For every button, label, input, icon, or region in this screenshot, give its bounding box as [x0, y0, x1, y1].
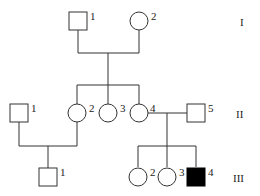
individual-III2-female [129, 168, 147, 186]
label-II5: 5 [208, 102, 214, 114]
label-III3: 3 [179, 166, 185, 178]
individual-II3-female [99, 104, 117, 122]
individual-III1-male [39, 168, 57, 186]
individual-II5-male [187, 104, 205, 122]
generation-label-III: III [233, 172, 244, 184]
label-II4: 4 [150, 102, 156, 114]
marriage-line-I [78, 30, 139, 53]
pedigree-chart: 1 2 I 1 2 3 4 5 II 1 2 3 4 III [0, 0, 260, 196]
individual-II1-male [10, 104, 28, 122]
sibling-drops-III [138, 146, 196, 167]
individual-II2-female [68, 104, 86, 122]
label-I2: 2 [151, 10, 157, 22]
individual-II4-female [130, 104, 148, 122]
label-II1: 1 [31, 102, 37, 114]
label-III2: 2 [150, 166, 156, 178]
label-II2: 2 [89, 102, 95, 114]
individual-I2-female [130, 12, 148, 30]
label-I1: 1 [90, 10, 96, 22]
sibling-drops-II [77, 85, 139, 104]
individual-I1-male [69, 12, 87, 30]
label-III4: 4 [208, 166, 214, 178]
label-II3: 3 [120, 102, 126, 114]
generation-label-II: II [236, 108, 244, 120]
individual-III4-affected-male [187, 168, 205, 186]
generation-label-I: I [240, 16, 244, 28]
marriage-line-II1-II2 [19, 122, 77, 146]
label-III1: 1 [60, 166, 66, 178]
individual-III3-female [158, 168, 176, 186]
